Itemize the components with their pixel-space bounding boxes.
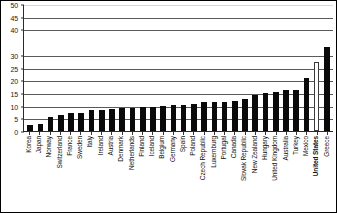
bar[interactable] [191,104,197,131]
x-axis-tick-label: Ireland [98,136,105,155]
bar-series [24,5,333,131]
bar[interactable] [150,107,156,131]
x-axis-label-slot: Denmark [116,132,126,212]
x-axis-tick-mark [286,132,287,135]
x-axis-tick-label: Czech Republic [200,136,207,180]
bar[interactable] [78,113,84,131]
bar-slot [117,5,127,131]
x-axis-tick-label: Korea [26,136,33,153]
bar[interactable] [293,90,299,131]
x-axis-tick-label: Switzerland [57,136,64,169]
bar[interactable] [232,101,238,131]
x-axis-label-slot: France [65,132,75,212]
bar-slot [250,5,260,131]
bar-slot [45,5,55,131]
x-axis-label-slot: Germany [168,132,178,212]
x-axis-tick-label: Canada [231,136,238,158]
bar-slot [209,5,219,131]
x-axis-label-slot: Norway [45,132,55,212]
x-axis-label-slot: Czech Republic [199,132,209,212]
y-axis-tick-label: 20 [11,78,18,85]
bar[interactable] [273,92,279,131]
x-axis-tick-mark [255,132,256,135]
bar-slot [148,5,158,131]
x-axis-tick-label: Slovak Republic [241,136,248,181]
bar-slot [301,5,311,131]
bar[interactable] [130,108,136,131]
x-axis-label-slot: Canada [229,132,239,212]
x-axis-tick-mark [29,132,30,135]
x-axis-tick-mark [132,132,133,135]
bar[interactable] [140,107,146,131]
bar-slot [240,5,250,131]
x-axis-labels: KoreaJapanNorwaySwitzerlandFranceSwedenI… [23,132,333,212]
x-axis-label-slot: Australia [281,132,291,212]
bar[interactable] [119,108,125,131]
bar-slot [271,5,281,131]
bar-slot [291,5,301,131]
bar-slot [25,5,35,131]
x-axis-label-slot: Switzerland [55,132,65,212]
bar[interactable] [324,47,330,131]
bar[interactable] [109,109,115,131]
x-axis-label-slot: Luxemburg [209,132,219,212]
bar-slot [35,5,45,131]
x-axis-tick-label: Germany [170,136,177,162]
bar[interactable] [89,110,95,131]
bar[interactable] [68,113,74,131]
bar[interactable] [263,93,269,131]
x-axis-tick-label: Austria [108,136,115,156]
x-axis-tick-mark [142,132,143,135]
plot-area [23,5,333,132]
x-axis-tick-mark [122,132,123,135]
bar-united-states[interactable] [314,62,320,131]
x-axis-label-slot: Turkey [291,132,301,212]
x-axis-tick-label: New Zealand [252,136,259,173]
x-axis-tick-mark [39,132,40,135]
bar[interactable] [38,124,44,131]
x-axis-tick-mark [234,132,235,135]
bar[interactable] [48,117,54,131]
bar[interactable] [222,102,228,131]
x-axis-tick-mark [224,132,225,135]
x-axis-tick-mark [204,132,205,135]
bar-slot [86,5,96,131]
x-axis-tick-mark [173,132,174,135]
bar-slot [127,5,137,131]
bar[interactable] [304,78,310,131]
x-axis-label-slot: Austria [106,132,116,212]
x-axis-tick-label: Greece [324,136,331,157]
x-axis-tick-label: Denmark [118,136,125,162]
bar[interactable] [58,115,64,131]
x-axis-tick-mark [214,132,215,135]
x-axis-label-slot: Slovak Republic [240,132,250,212]
bar[interactable] [212,102,218,131]
bar[interactable] [171,105,177,131]
x-axis-tick-mark [183,132,184,135]
x-axis-label-slot: Portugal [219,132,229,212]
x-axis-label-slot: Iceland [147,132,157,212]
x-axis-tick-label: Luxemburg [211,136,218,168]
x-axis-tick-label: Mexico [303,136,310,156]
x-axis-tick-label: United Kingdom [272,136,279,181]
y-axis-tick-label: 45 [11,14,18,21]
bar-slot [230,5,240,131]
x-axis-tick-mark [296,132,297,135]
bar[interactable] [201,102,207,131]
bar[interactable] [181,105,187,131]
x-axis-tick-mark [276,132,277,135]
bar[interactable] [283,90,289,131]
bar[interactable] [242,99,248,131]
x-axis-tick-label: Belgium [159,136,166,159]
bar[interactable] [27,125,33,131]
x-axis-tick-label: Australia [283,136,290,160]
y-axis-tick-label: 0 [14,129,18,136]
y-axis-tick-label: 25 [11,65,18,72]
x-axis-tick-mark [317,132,318,135]
bar[interactable] [160,106,166,131]
bar[interactable] [99,110,105,131]
bar[interactable] [252,95,258,131]
x-axis-tick-label: Finland [139,136,146,157]
x-axis-tick-label: Norway [46,136,53,157]
y-axis-tick-label: 15 [11,90,18,97]
